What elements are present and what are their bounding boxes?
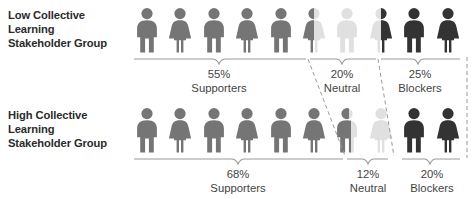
segment-name-blockers-high: Blockers (392, 182, 472, 196)
stakeholder-pictogram-chart: Low Collective Learning Stakeholder Grou… (0, 0, 475, 199)
segment-name-neutral-low: Neutral (302, 82, 382, 96)
person-icon-female-4 (234, 107, 260, 153)
person-icon-female-2 (167, 7, 193, 53)
person-icon-male-1 (134, 107, 160, 153)
segment-name-supporters-high: Supporters (178, 182, 298, 196)
group-title-high-line1: High Collective (8, 109, 87, 121)
segment-pct-supporters-low: 55% (159, 68, 279, 82)
segment-pct-supporters-high: 68% (178, 168, 298, 182)
person-icon-female-8 (368, 107, 394, 153)
person-icon-female-10 (435, 7, 461, 53)
bracket-row-low: 55% Supporters 20% Neutral 25% Blockers (0, 56, 475, 100)
bracket-neutral-high (347, 159, 388, 164)
bracket-blockers-low (381, 59, 460, 64)
person-icon-male-9 (401, 107, 427, 153)
pictogram-row-low (134, 7, 468, 54)
person-icon-female-4 (234, 7, 260, 53)
person-icon-male-5 (268, 107, 294, 153)
person-icon-female-10 (435, 107, 461, 153)
segment-pct-blockers-low: 25% (380, 68, 460, 82)
bracket-supporters-high (134, 159, 343, 164)
person-icon-female-2 (167, 107, 193, 153)
group-title-high-line3: Stakeholder Group (8, 137, 107, 149)
segment-label-supporters-high: 68% Supporters (178, 168, 298, 195)
bracket-neutral-low (310, 59, 376, 64)
person-icon-male-7 (334, 7, 360, 53)
bracket-blockers-high (402, 159, 460, 164)
person-icon-female-6 (301, 7, 327, 53)
segment-label-blockers-high: 20% Blockers (392, 168, 472, 195)
segment-label-blockers-low: 25% Blockers (380, 68, 460, 95)
person-icon-male-1 (134, 7, 160, 53)
stakeholder-group-low: Low Collective Learning Stakeholder Grou… (0, 0, 475, 100)
person-icon-female-6 (301, 107, 327, 153)
pictogram-row-high (134, 107, 468, 154)
group-title-high-line2: Learning (8, 123, 54, 135)
stakeholder-group-high: High Collective Learning Stakeholder Gro… (0, 100, 475, 199)
person-icon-male-5 (268, 7, 294, 53)
group-title-low: Low Collective Learning Stakeholder Grou… (8, 8, 128, 51)
group-title-low-line3: Stakeholder Group (8, 37, 107, 49)
group-title-low-line2: Learning (8, 23, 54, 35)
segment-pct-neutral-low: 20% (302, 68, 382, 82)
segment-pct-blockers-high: 20% (392, 168, 472, 182)
bracket-supporters-low (134, 59, 306, 64)
group-title-high: High Collective Learning Stakeholder Gro… (8, 108, 128, 151)
person-icon-female-8 (368, 7, 394, 53)
group-title-low-line1: Low Collective (8, 9, 85, 21)
segment-label-neutral-low: 20% Neutral (302, 68, 382, 95)
segment-label-supporters-low: 55% Supporters (159, 68, 279, 95)
segment-name-supporters-low: Supporters (159, 82, 279, 96)
segment-name-blockers-low: Blockers (380, 82, 460, 96)
bracket-row-high: 68% Supporters 12% Neutral 20% Blockers (0, 156, 475, 199)
person-icon-male-7 (334, 107, 360, 153)
person-icon-male-3 (201, 7, 227, 53)
person-icon-male-3 (201, 107, 227, 153)
person-icon-male-9 (401, 7, 427, 53)
